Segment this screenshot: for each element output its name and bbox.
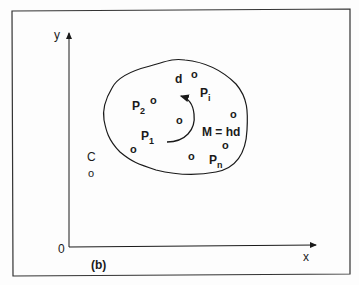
panel-label: (b): [91, 258, 106, 272]
y-axis-label: y: [54, 28, 60, 42]
point-center-marker: o: [176, 114, 183, 126]
point-right-lower-marker: o: [222, 139, 229, 151]
point-p2-marker: o: [150, 94, 157, 106]
figure-frame: [12, 9, 350, 276]
point-d-label: d: [175, 72, 182, 86]
rigid-body-diagram: y x 0 (b) C o d o P2 o Pi o o M = hd P1 …: [0, 0, 359, 285]
point-p1-label: P1: [141, 129, 154, 146]
point-mid-marker: o: [188, 150, 195, 162]
point-c-marker: o: [88, 167, 94, 179]
figure-frame: [13, 11, 171, 139]
x-axis-label: x: [303, 250, 309, 264]
point-right-marker: o: [230, 108, 237, 120]
point-d-marker: o: [191, 68, 198, 80]
origin-label: 0: [58, 242, 65, 256]
point-pn-label: Pn: [209, 153, 223, 170]
moment-label: M = hd: [202, 125, 240, 139]
point-p2-label: P2: [132, 99, 145, 116]
point-p1-marker: o: [130, 143, 137, 155]
x-axis: [69, 245, 316, 247]
point-pi-label: Pi: [200, 86, 211, 103]
point-c-label: C: [87, 150, 96, 164]
